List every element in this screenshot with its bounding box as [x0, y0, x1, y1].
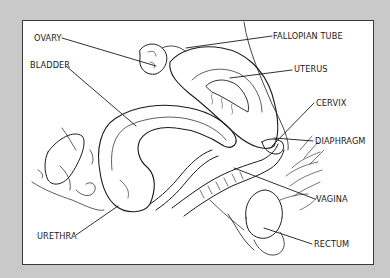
- label-urethra: URETHRA: [37, 232, 77, 240]
- leader-urethra: [76, 206, 118, 235]
- label-fallopian-tube: FALLOPIAN TUBE: [273, 32, 343, 40]
- label-uterus: UTERUS: [294, 65, 328, 73]
- ovary-shape: [140, 44, 186, 74]
- leader-ovary: [62, 38, 156, 66]
- leader-bladder: [66, 66, 136, 126]
- label-bladder: BLADDER: [30, 61, 70, 69]
- urethra-shape: [150, 150, 218, 210]
- vagina-shape: [172, 144, 284, 216]
- rectum-shape: [210, 190, 284, 255]
- label-rectum: RECTUM: [314, 240, 349, 248]
- bladder-shape: [99, 105, 237, 212]
- label-diaphragm: DIAPHRAGM: [315, 137, 366, 145]
- soft-tissue-left: [32, 128, 104, 210]
- leader-fallopian-tube: [186, 36, 272, 48]
- pubic-bone-shape: [45, 134, 84, 184]
- label-vagina: VAGINA: [316, 195, 348, 203]
- uterus-shape: [170, 47, 278, 149]
- peritoneum-line: [244, 22, 288, 150]
- label-ovary: OVARY: [34, 34, 62, 42]
- label-cervix: CERVIX: [316, 99, 346, 107]
